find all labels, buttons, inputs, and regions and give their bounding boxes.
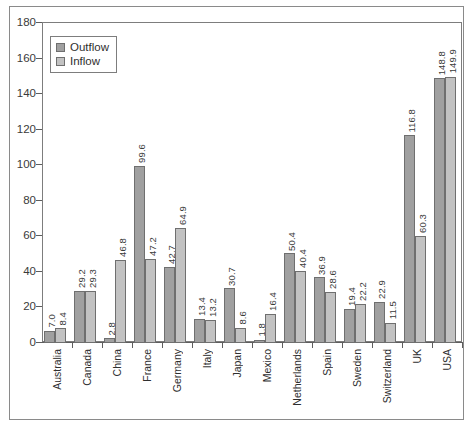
y-axis-tick bbox=[36, 93, 42, 94]
x-axis-tick bbox=[102, 343, 103, 348]
x-axis-tick bbox=[192, 343, 193, 348]
bar-inflow[interactable]: 46.8 bbox=[115, 260, 126, 343]
x-axis-tick bbox=[252, 343, 253, 348]
x-axis-category-label: China bbox=[111, 349, 123, 376]
bar-outflow[interactable]: 50.4 bbox=[284, 253, 295, 343]
bar-inflow[interactable]: 8.4 bbox=[55, 328, 66, 343]
x-axis-category-label: Netherlands bbox=[291, 349, 303, 406]
y-axis-tick bbox=[36, 129, 42, 130]
bar-group: 42.764.9 bbox=[162, 23, 192, 343]
bar-value-label: 64.9 bbox=[177, 206, 188, 225]
bar-outflow[interactable]: 29.2 bbox=[74, 291, 85, 343]
y-axis-tick bbox=[36, 306, 42, 307]
bar-value-label: 47.2 bbox=[147, 237, 158, 256]
bar-value-label: 7.0 bbox=[46, 314, 57, 328]
y-axis-tick-label: 140 bbox=[2, 87, 36, 99]
bar-inflow[interactable]: 40.4 bbox=[295, 271, 306, 343]
bar-group: 50.440.4 bbox=[282, 23, 312, 343]
x-axis-tick bbox=[222, 343, 223, 348]
x-axis-category-label: Spain bbox=[321, 349, 333, 376]
y-axis-tick-label: 60 bbox=[2, 229, 36, 241]
bar-value-label: 8.4 bbox=[57, 312, 68, 326]
bar-inflow[interactable]: 64.9 bbox=[175, 228, 186, 343]
y-axis-tick-label: 0 bbox=[2, 336, 36, 348]
bar-value-label: 29.3 bbox=[87, 269, 98, 288]
bar-outflow[interactable]: 2.8 bbox=[104, 338, 115, 343]
bar-value-label: 50.4 bbox=[286, 232, 297, 251]
bar-value-label: 11.5 bbox=[387, 301, 398, 319]
bar-value-label: 13.4 bbox=[196, 297, 207, 316]
bar-outflow[interactable]: 22.9 bbox=[374, 302, 385, 343]
x-axis-tick bbox=[402, 343, 403, 348]
y-axis-tick-label: 80 bbox=[2, 194, 36, 206]
bar-inflow[interactable]: 22.2 bbox=[355, 304, 366, 343]
bar-value-label: 22.2 bbox=[357, 282, 368, 301]
bar-outflow[interactable]: 42.7 bbox=[164, 267, 175, 343]
bar-value-label: 29.2 bbox=[76, 269, 87, 288]
y-axis-tick bbox=[36, 200, 42, 201]
x-axis-category-label: Canada bbox=[81, 349, 93, 386]
bar-value-label: 40.4 bbox=[297, 249, 308, 268]
legend-label: Inflow bbox=[70, 55, 100, 67]
bar-inflow[interactable]: 29.3 bbox=[85, 291, 96, 343]
bar-value-label: 149.9 bbox=[447, 49, 458, 73]
y-axis-tick bbox=[36, 342, 42, 343]
bar-value-label: 16.4 bbox=[267, 292, 278, 311]
y-axis-tick-label: 40 bbox=[2, 265, 36, 277]
bar-outflow[interactable]: 1.8 bbox=[254, 340, 265, 343]
x-axis-label-group: AustraliaCanadaChinaFranceGermanyItalyJa… bbox=[42, 349, 463, 427]
bar-outflow[interactable]: 13.4 bbox=[194, 319, 205, 343]
bar-inflow[interactable]: 16.4 bbox=[265, 314, 276, 343]
x-axis-category-label: Australia bbox=[51, 349, 63, 390]
bar-value-label: 99.6 bbox=[136, 144, 147, 163]
bar-inflow[interactable]: 11.5 bbox=[385, 323, 396, 343]
bar-value-label: 60.3 bbox=[417, 214, 428, 233]
legend-item[interactable]: Outflow bbox=[56, 40, 109, 54]
bar-value-label: 30.7 bbox=[226, 267, 237, 286]
bar-inflow[interactable]: 47.2 bbox=[145, 259, 156, 343]
x-axis-tick bbox=[432, 343, 433, 348]
x-axis-category-label: France bbox=[141, 349, 153, 382]
bar-outflow[interactable]: 30.7 bbox=[224, 288, 235, 343]
bar-outflow[interactable]: 148.8 bbox=[434, 78, 445, 343]
bar-outflow[interactable]: 19.4 bbox=[344, 309, 355, 343]
bar-outflow[interactable]: 7.0 bbox=[44, 331, 55, 343]
bar-inflow[interactable]: 28.6 bbox=[325, 292, 336, 343]
x-axis-tick bbox=[132, 343, 133, 348]
y-axis-tick bbox=[36, 235, 42, 236]
y-axis-label-group: 020406080100120140160180 bbox=[0, 0, 36, 430]
x-axis-category-label: Mexico bbox=[261, 349, 273, 382]
x-axis-category-label: USA bbox=[441, 349, 453, 371]
bar-inflow[interactable]: 149.9 bbox=[445, 77, 456, 343]
bar-group: 116.860.3 bbox=[402, 23, 432, 343]
x-axis-tick bbox=[72, 343, 73, 348]
x-axis-tick bbox=[162, 343, 163, 348]
y-axis-tick-label: 180 bbox=[2, 16, 36, 28]
x-axis-category-label: Italy bbox=[201, 349, 213, 368]
legend-label: Outflow bbox=[70, 41, 109, 53]
y-axis-tick bbox=[36, 271, 42, 272]
bar-outflow[interactable]: 116.8 bbox=[404, 135, 415, 343]
bar-value-label: 36.9 bbox=[316, 256, 327, 275]
bar-value-label: 46.8 bbox=[117, 238, 128, 257]
x-axis-category-label: UK bbox=[411, 349, 423, 364]
y-axis-tick-label: 20 bbox=[2, 300, 36, 312]
x-axis-tick bbox=[312, 343, 313, 348]
x-axis-tick bbox=[372, 343, 373, 348]
bar-inflow[interactable]: 8.6 bbox=[235, 328, 246, 343]
bar-group: 13.413.2 bbox=[192, 23, 222, 343]
y-axis-tick-label: 100 bbox=[2, 158, 36, 170]
y-axis-tick bbox=[36, 22, 42, 23]
bar-group: 22.911.5 bbox=[372, 23, 402, 343]
bar-inflow[interactable]: 13.2 bbox=[205, 320, 216, 343]
bar-inflow[interactable]: 60.3 bbox=[415, 236, 426, 343]
bar-outflow[interactable]: 99.6 bbox=[134, 166, 145, 343]
bar-value-label: 116.8 bbox=[406, 109, 417, 133]
bar-outflow[interactable]: 36.9 bbox=[314, 277, 325, 343]
bar-group: 19.422.2 bbox=[342, 23, 372, 343]
x-axis-category-label: Switzerland bbox=[381, 349, 393, 403]
x-axis-tick bbox=[342, 343, 343, 348]
chart-legend: OutflowInflow bbox=[50, 36, 117, 73]
legend-item[interactable]: Inflow bbox=[56, 54, 109, 68]
x-axis-tick bbox=[462, 343, 463, 348]
